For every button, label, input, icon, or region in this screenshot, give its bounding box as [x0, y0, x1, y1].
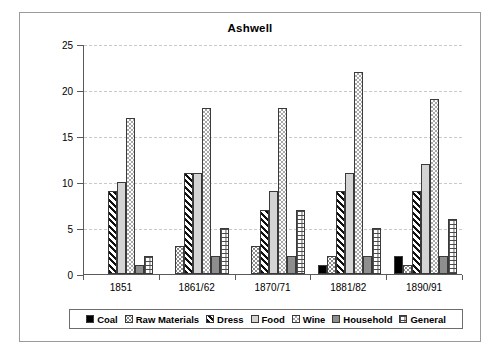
- bar-general-1861-62: [220, 228, 229, 274]
- legend-label: Household: [343, 314, 392, 325]
- y-axis-tick-label: 15: [62, 132, 73, 143]
- x-axis-label-1851: 1851: [110, 282, 132, 293]
- bar-food-1870-71: [269, 191, 278, 274]
- legend-label: Dress: [217, 314, 243, 325]
- x-axis-label-1861-62: 1861/62: [179, 282, 215, 293]
- legend-swatch-food-icon: [251, 315, 259, 323]
- y-axis-tick: [77, 91, 83, 92]
- x-axis-label-1890-91: 1890/91: [406, 282, 442, 293]
- bar-food-1881-82: [345, 173, 354, 274]
- x-axis-tick: [83, 275, 84, 280]
- bar-food-1851: [117, 182, 126, 274]
- bar-group-1890-91: [387, 45, 463, 274]
- y-axis-tick-label: 10: [62, 178, 73, 189]
- y-axis-tick-label: 5: [67, 224, 73, 235]
- bar-group-1870-71: [236, 45, 312, 274]
- bar-dress-1890-91: [412, 191, 421, 274]
- y-axis-tick-label: 0: [67, 270, 73, 281]
- x-axis-tick: [310, 275, 311, 280]
- y-axis-tick: [77, 183, 83, 184]
- bar-general-1851: [144, 256, 153, 274]
- bar-household-1851: [135, 265, 144, 274]
- bar-general-1890-91: [448, 219, 457, 274]
- legend-swatch-coal-icon: [86, 315, 94, 323]
- bar-raw-materials-1870-71: [251, 246, 260, 274]
- bar-group-1861-62: [160, 45, 236, 274]
- bar-dress-1861-62: [184, 173, 193, 274]
- bar-household-1870-71: [287, 256, 296, 274]
- x-axis: 18511861/621870/711881/821890/91: [83, 275, 462, 301]
- legend-item-household[interactable]: Household: [332, 314, 392, 325]
- bar-coal-1881-82: [318, 265, 327, 274]
- legend-item-food[interactable]: Food: [251, 314, 285, 325]
- bar-raw-materials-1881-82: [327, 256, 336, 274]
- y-axis-tick: [77, 137, 83, 138]
- bar-wine-1851: [126, 118, 135, 274]
- legend-label: Raw Materials: [136, 314, 199, 325]
- x-axis-tick: [159, 275, 160, 280]
- legend-label: Wine: [303, 314, 326, 325]
- chart-figure: Ashwell No. Principal Providers 05101520…: [19, 12, 481, 342]
- bar-general-1870-71: [296, 210, 305, 274]
- legend-item-dress[interactable]: Dress: [206, 314, 243, 325]
- x-axis-tick: [386, 275, 387, 280]
- y-axis-tick: [77, 229, 83, 230]
- bar-wine-1861-62: [202, 108, 211, 274]
- bar-household-1881-82: [363, 256, 372, 274]
- bar-household-1861-62: [211, 256, 220, 274]
- y-axis-tick-label: 20: [62, 86, 73, 97]
- x-axis-tick: [235, 275, 236, 280]
- legend-item-raw-materials[interactable]: Raw Materials: [125, 314, 199, 325]
- bar-dress-1851: [108, 191, 117, 274]
- legend-item-wine[interactable]: Wine: [292, 314, 326, 325]
- bar-food-1861-62: [193, 173, 202, 274]
- bar-raw-materials-1861-62: [175, 246, 184, 274]
- x-axis-tick: [462, 275, 463, 280]
- bar-wine-1881-82: [354, 72, 363, 274]
- y-axis-tick: [77, 45, 83, 46]
- bar-group-1851: [84, 45, 160, 274]
- plot-area: 0510152025: [83, 45, 462, 275]
- legend-swatch-raw-materials-icon: [125, 315, 133, 323]
- x-axis-label-1881-82: 1881/82: [330, 282, 366, 293]
- bar-wine-1870-71: [278, 108, 287, 274]
- legend-swatch-household-icon: [332, 315, 340, 323]
- bar-group-1881-82: [311, 45, 387, 274]
- legend-label: General: [410, 314, 445, 325]
- bar-dress-1870-71: [260, 210, 269, 274]
- legend-swatch-general-icon: [399, 315, 407, 323]
- legend-label: Coal: [97, 314, 118, 325]
- chart-title: Ashwell: [20, 22, 480, 34]
- x-axis-label-1870-71: 1870/71: [254, 282, 290, 293]
- bar-household-1890-91: [439, 256, 448, 274]
- bar-coal-1890-91: [394, 256, 403, 274]
- bar-dress-1881-82: [336, 191, 345, 274]
- legend-label: Food: [262, 314, 285, 325]
- bar-food-1890-91: [421, 164, 430, 274]
- chart-legend: CoalRaw MaterialsDressFoodWineHouseholdG…: [69, 309, 463, 329]
- legend-swatch-wine-icon: [292, 315, 300, 323]
- bar-general-1881-82: [372, 228, 381, 274]
- legend-item-general[interactable]: General: [399, 314, 445, 325]
- legend-item-coal[interactable]: Coal: [86, 314, 118, 325]
- legend-swatch-dress-icon: [206, 315, 214, 323]
- y-axis-tick-label: 25: [62, 40, 73, 51]
- bar-wine-1890-91: [430, 99, 439, 274]
- bar-raw-materials-1890-91: [403, 265, 412, 274]
